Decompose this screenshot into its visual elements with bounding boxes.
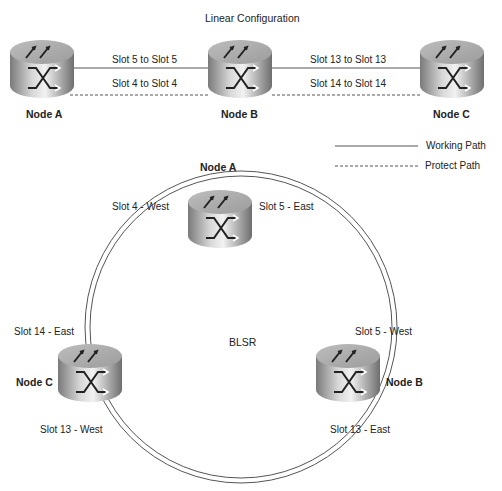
blsr-node-a-west: Slot 4 - West: [112, 201, 169, 212]
router-icon-linear-a: [10, 40, 74, 98]
blsr-node-a-east: Slot 5 - East: [259, 201, 313, 212]
router-icon-blsr-c: [58, 344, 122, 402]
blsr-node-b-east: Slot 13 - East: [330, 424, 390, 435]
linear-node-a-label: Node A: [26, 108, 62, 120]
blsr-node-c-west: Slot 13 - West: [40, 424, 103, 435]
link-a-b-protect-label: Slot 4 to Slot 4: [112, 78, 177, 89]
router-icon-linear-c: [420, 40, 484, 98]
blsr-node-c-label: Node C: [16, 376, 53, 388]
diagram-canvas: [0, 0, 502, 491]
blsr-node-a-label: Node A: [200, 161, 236, 173]
blsr-node-b-west: Slot 5 - West: [355, 326, 412, 337]
link-a-b-working-label: Slot 5 to Slot 5: [112, 54, 177, 65]
linear-title: Linear Configuration: [205, 12, 300, 24]
blsr-node-b-label: Node B: [386, 376, 423, 388]
legend-protect-label: Protect Path: [425, 160, 480, 171]
router-icon-blsr-b: [316, 344, 380, 402]
legend-working-label: Working Path: [426, 140, 486, 151]
blsr-title: BLSR: [229, 336, 256, 348]
router-icon-blsr-a: [188, 190, 252, 248]
link-b-c-protect-label: Slot 14 to Slot 14: [310, 78, 386, 89]
router-icon-linear-b: [208, 40, 272, 98]
linear-node-b-label: Node B: [221, 108, 258, 120]
linear-node-c-label: Node C: [433, 108, 470, 120]
blsr-node-c-east: Slot 14 - East: [14, 326, 74, 337]
link-b-c-working-label: Slot 13 to Slot 13: [310, 54, 386, 65]
